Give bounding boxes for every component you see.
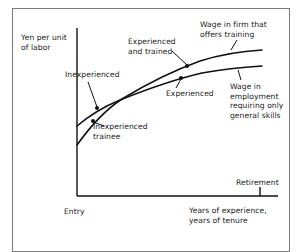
annotation-inexperienced: Inexperienced xyxy=(65,70,120,80)
annotation-experienced: Experienced xyxy=(166,89,214,99)
x-axis-tick-label-retirement: Retirement xyxy=(236,178,279,188)
annotation-wage-general-skills: Wage in employment requiring only genera… xyxy=(230,82,283,120)
x-axis-tick-label-entry: Entry xyxy=(64,207,84,217)
x-axis-label: Years of experience, years of tenure xyxy=(189,206,267,225)
leader-line-wage-general-skills xyxy=(238,70,241,80)
annotation-experienced-and-trained: Experienced and trained xyxy=(128,37,176,56)
leader-line-wage-firm-training xyxy=(231,40,237,50)
annotation-inexperienced-trainee: Inexperienced trainee xyxy=(93,122,148,141)
annotation-wage-firm-training: Wage in firm that offers training xyxy=(200,20,267,39)
y-axis-label: Yen per unit of labor xyxy=(21,33,67,52)
leader-line-inexperienced xyxy=(88,82,97,107)
